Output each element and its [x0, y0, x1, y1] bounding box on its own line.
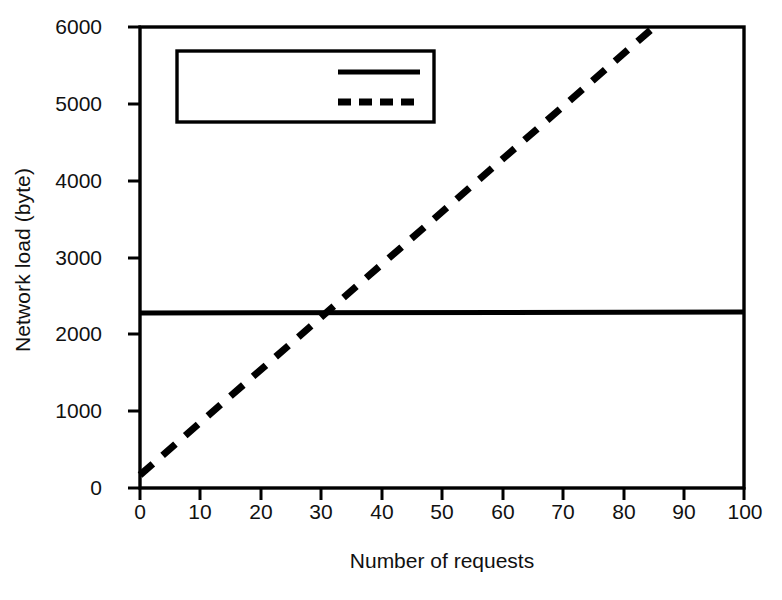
plot-svg — [0, 0, 782, 600]
series-line-mobile-agents — [140, 312, 744, 313]
legend-box — [177, 51, 434, 122]
chart-figure: Network load (byte) Number of requests 6… — [0, 0, 782, 600]
